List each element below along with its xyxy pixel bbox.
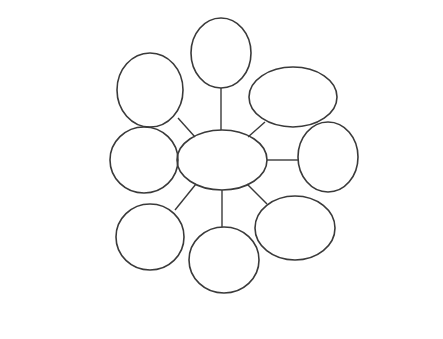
diagram-canvas: [0, 0, 443, 339]
energy-ellipse: [191, 18, 251, 88]
infrastructure-ellipse: [249, 67, 337, 127]
electronics-ellipse: [189, 227, 259, 293]
automobiles-ellipse: [110, 127, 178, 193]
center-ellipse: [177, 130, 267, 190]
food-ellipse: [116, 204, 184, 270]
environment-ellipse: [255, 196, 335, 260]
biomedical-ellipse: [117, 53, 183, 127]
defence-ellipse: [298, 122, 358, 192]
connector-lines: [0, 0, 443, 339]
